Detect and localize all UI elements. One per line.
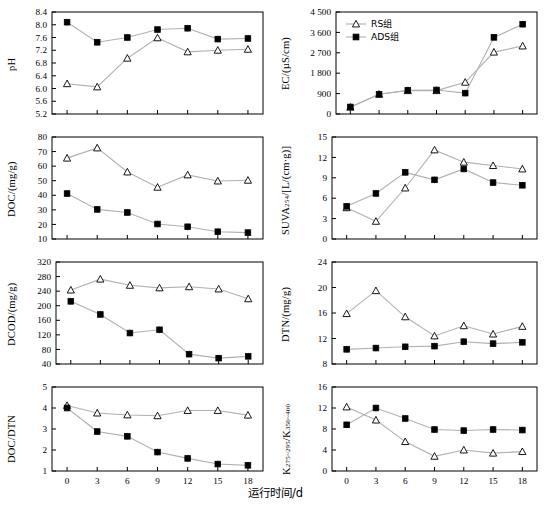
- ytick-label: 240: [37, 286, 51, 296]
- ylabel-suva: SUVA254/[L/(cm·g)]: [280, 133, 291, 247]
- ytick-label: 8.0: [36, 20, 48, 30]
- ytick-label: 80: [42, 345, 52, 355]
- ytick-label: 200: [37, 301, 51, 311]
- plot-K275-295/K350-400: 04812160369121518: [274, 379, 549, 501]
- ytick-label: 0: [322, 234, 327, 244]
- legend: RS组ADS组: [346, 18, 399, 42]
- ytick-label: 5.6: [36, 96, 48, 106]
- ytick-label: 40: [38, 190, 48, 200]
- plot-DOC: 1020304050607080: [0, 129, 275, 251]
- ytick-label: 60: [38, 161, 48, 171]
- ytick-label: 160: [37, 315, 51, 325]
- ytick-label: 0: [322, 466, 327, 476]
- panel-dcod: DCOD/(mg/g) 4080120160200240280320: [0, 254, 275, 376]
- series-ads: [344, 338, 525, 353]
- ytick-label: 3: [42, 424, 47, 434]
- plot-SUVA254: 03691215: [274, 129, 549, 251]
- ytick-label: 7.6: [36, 33, 48, 43]
- panel-kratio: K275~295/K350~400 04812160369121518: [274, 379, 549, 501]
- series-rs: [347, 42, 526, 110]
- panel-ec: EC/(µS/cm) 09001 8002 7003 6004 500RS组AD…: [274, 4, 549, 126]
- series-ads: [64, 190, 250, 236]
- ytick-label: 6.8: [36, 58, 48, 68]
- ytick-label: 24: [318, 257, 328, 267]
- xtick-label: 12: [183, 476, 193, 486]
- series-rs: [67, 276, 252, 303]
- xtick-label: 0: [344, 476, 349, 486]
- ytick-label: 20: [38, 220, 48, 230]
- ylabel-ec: EC/(µS/cm): [280, 14, 291, 114]
- series-rs: [343, 146, 526, 225]
- ytick-label: 120: [37, 330, 51, 340]
- series-rs: [63, 144, 251, 191]
- panel-ph: pH 5.25.66.06.46.87.27.68.08.4: [0, 4, 275, 126]
- ytick-label: 12: [318, 403, 328, 413]
- ytick-label: 30: [38, 205, 48, 215]
- xtick-label: 0: [65, 476, 70, 486]
- plot-DTN: 812162024: [274, 254, 549, 376]
- ytick-label: 9: [322, 173, 327, 183]
- ytick-label: 20: [318, 283, 328, 293]
- plot-DOC/DTN: 123450369121518: [0, 379, 275, 501]
- ytick-label: 3 600: [310, 28, 331, 38]
- xtick-label: 9: [155, 476, 160, 486]
- xtick-label: 3: [374, 476, 379, 486]
- xtick-label: 12: [459, 476, 469, 486]
- ytick-label: 900: [317, 89, 331, 99]
- figure-root: pH 5.25.66.06.46.87.27.68.08.4 EC/(µS/cm…: [0, 0, 549, 512]
- xtick-label: 18: [518, 476, 528, 486]
- series-rs: [343, 287, 526, 339]
- xaxis-label: 运行时间/d: [248, 484, 303, 500]
- ylabel-dtn: DTN/(mg/g): [280, 268, 291, 360]
- xtick-label: 6: [403, 476, 408, 486]
- ylabel-kratio: K275~295/K350~400: [281, 389, 292, 489]
- ytick-label: 70: [38, 147, 48, 157]
- panel-doc: DOC/(mg/g) 1020304050607080: [0, 129, 275, 251]
- ytick-label: 16: [318, 308, 328, 318]
- ytick-label: 2 700: [310, 48, 331, 58]
- ytick-label: 280: [37, 272, 51, 282]
- ytick-label: 5.2: [36, 109, 48, 119]
- ytick-label: 15: [318, 132, 328, 142]
- ytick-label: 4: [42, 403, 47, 413]
- ytick-label: 7.2: [36, 45, 48, 55]
- xtick-label: 15: [488, 476, 498, 486]
- legend-label-rs: RS组: [371, 18, 392, 29]
- ytick-label: 12: [318, 334, 328, 344]
- ytick-label: 8: [322, 424, 327, 434]
- ytick-label: 50: [38, 176, 48, 186]
- series-ads: [344, 165, 525, 210]
- ytick-label: 3: [322, 214, 327, 224]
- series-rs: [63, 402, 251, 419]
- ytick-label: 6.0: [36, 84, 48, 94]
- ytick-label: 0: [326, 109, 331, 119]
- ytick-label: 12: [318, 153, 328, 163]
- ytick-label: 2: [42, 445, 47, 455]
- plot-pH: 5.25.66.06.46.87.27.68.08.4: [0, 4, 275, 126]
- ytick-label: 10: [38, 234, 48, 244]
- ytick-label: 8.4: [36, 7, 48, 17]
- panel-suva: SUVA254/[L/(cm·g)] 03691215: [274, 129, 549, 251]
- ylabel-ph: pH: [6, 34, 17, 94]
- ytick-label: 4 500: [310, 7, 331, 17]
- xtick-label: 15: [213, 476, 223, 486]
- xtick-label: 3: [95, 476, 100, 486]
- plot-DCOD: 4080120160200240280320: [0, 254, 275, 376]
- ytick-label: 5: [42, 382, 47, 392]
- series-ads: [64, 19, 250, 46]
- xtick-label: 9: [432, 476, 437, 486]
- series-rs: [63, 34, 251, 90]
- legend-label-ads: ADS组: [371, 31, 399, 42]
- plot-EC: 09001 8002 7003 6004 500RS组ADS组: [274, 4, 549, 126]
- ytick-label: 1: [42, 466, 47, 476]
- ytick-label: 16: [318, 382, 328, 392]
- ytick-label: 8: [322, 359, 327, 369]
- ytick-label: 1 800: [310, 68, 331, 78]
- series-ads: [344, 404, 525, 434]
- panel-doc-dtn: DOC/DTN 123450369121518: [0, 379, 275, 501]
- ytick-label: 40: [42, 359, 52, 369]
- ylabel-doc-dtn: DOC/DTN: [6, 399, 17, 479]
- ytick-label: 320: [37, 257, 51, 267]
- ylabel-dcod: DCOD/(mg/g): [6, 262, 17, 366]
- xtick-label: 6: [125, 476, 130, 486]
